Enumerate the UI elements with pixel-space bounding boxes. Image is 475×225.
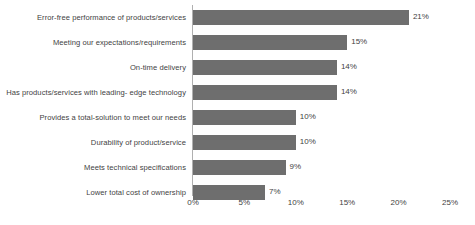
category-label: Error-free performance of products/servi… [0,13,186,22]
bar-row: Durability of product/service10% [0,130,475,155]
bar[interactable] [193,60,337,75]
bar[interactable] [193,135,296,150]
bar-value-label: 21% [413,9,429,24]
bar-value-label: 9% [290,159,302,174]
bar[interactable] [193,110,296,125]
x-axis-tick-label: 25% [442,197,458,209]
bar[interactable] [193,10,409,25]
bar-row: Meeting our expectations/requirements15% [0,30,475,55]
category-label: Has products/services with leading- edge… [0,88,186,97]
bar[interactable] [193,160,286,175]
bar-track [193,135,450,150]
bar[interactable] [193,85,337,100]
bar-value-label: 10% [300,109,316,124]
x-axis-tick-label: 0% [187,197,199,209]
bar-chart: Error-free performance of products/servi… [0,0,475,225]
bar-row: Meets technical specifications9% [0,155,475,180]
category-label: Lower total cost of ownership [0,188,186,197]
bar-track [193,110,450,125]
category-label: Meeting our expectations/requirements [0,38,186,47]
bar-row: On-time delivery14% [0,55,475,80]
bar-value-label: 14% [341,59,357,74]
x-axis-tick-label: 5% [239,197,251,209]
bar-row: Has products/services with leading- edge… [0,80,475,105]
bar-row: Provides a total-solution to meet our ne… [0,105,475,130]
x-axis-tick-label: 20% [391,197,407,209]
category-label: Provides a total-solution to meet our ne… [0,113,186,122]
bar-track [193,85,450,100]
bar-row: Error-free performance of products/servi… [0,5,475,30]
bar-value-label: 14% [341,84,357,99]
category-label: Durability of product/service [0,138,186,147]
category-label: On-time delivery [0,63,186,72]
x-axis-tick-label: 10% [288,197,304,209]
plot-area: Error-free performance of products/servi… [0,0,475,196]
bar-track [193,35,450,50]
bar-value-label: 15% [351,34,367,49]
x-axis-tick-labels: 0%5%10%15%20%25% [0,197,475,213]
bar[interactable] [193,35,347,50]
bar-track [193,60,450,75]
x-axis-tick-label: 15% [339,197,355,209]
bar-value-label: 10% [300,134,316,149]
category-label: Meets technical specifications [0,163,186,172]
bar-track [193,160,450,175]
bar-track [193,10,450,25]
